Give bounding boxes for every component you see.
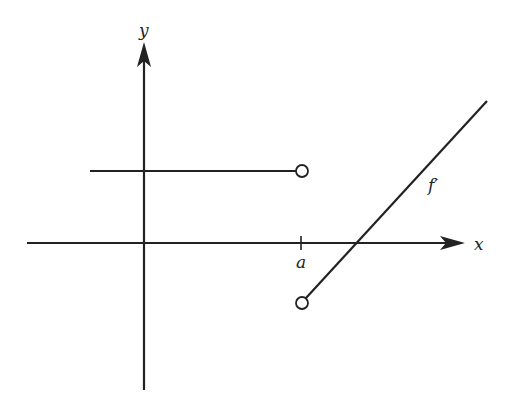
right-line <box>306 101 487 298</box>
curve-label: f′ <box>426 175 438 195</box>
open-circle-bottom <box>296 297 308 309</box>
open-circle-top <box>296 165 308 177</box>
tick-a-label: a <box>296 252 306 272</box>
y-axis-label: y <box>138 20 149 40</box>
graph-canvas: y x a f′ <box>0 0 510 411</box>
x-axis-label: x <box>474 234 484 254</box>
